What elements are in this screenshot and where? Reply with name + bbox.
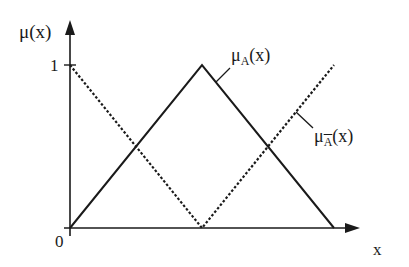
label-mu-a-tail: (x) (249, 45, 270, 65)
y-axis-label: μ(x) (19, 22, 51, 41)
label-mu-a-complement: μA(x) (314, 127, 353, 148)
label-mu-a-complement-main: μ (314, 126, 324, 146)
leader-mu-a (216, 68, 230, 82)
y-axis-arrow-icon (65, 20, 75, 35)
label-mu-a-complement-tail: (x) (332, 126, 353, 146)
curve-mu-a-complement (70, 65, 334, 228)
origin-label: 0 (55, 233, 64, 250)
leader-mu-a-complement (296, 112, 313, 128)
label-mu-a: μA(x) (231, 46, 270, 67)
y-tick-label: 1 (50, 57, 59, 74)
label-mu-a-main: μ (231, 45, 241, 65)
x-axis-arrow-icon (345, 223, 360, 233)
x-axis-label: x (373, 241, 382, 258)
curve-mu-a (70, 65, 334, 228)
